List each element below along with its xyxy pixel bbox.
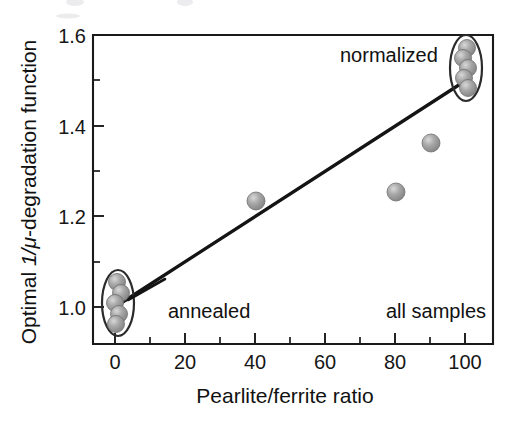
annotation-annealed: annealed xyxy=(168,300,250,322)
data-point xyxy=(247,192,265,210)
x-tick-labels: 0 20 40 60 80 100 xyxy=(109,351,481,373)
data-point xyxy=(460,80,477,97)
x-tick-label: 40 xyxy=(244,351,266,373)
y-axis-ticks xyxy=(93,35,104,307)
data-point-group-annealed xyxy=(107,274,130,333)
x-tick-label: 100 xyxy=(448,351,481,373)
data-point-group-intermediate xyxy=(247,134,440,210)
y-tick-labels: 1.6 1.4 1.2 1.0 xyxy=(58,25,86,319)
x-tick-label: 80 xyxy=(384,351,406,373)
figure-container: 1.6 1.4 1.2 1.0 0 20 40 60 80 100 xyxy=(0,0,517,421)
trend-line xyxy=(115,81,465,307)
x-tick-label: 60 xyxy=(314,351,336,373)
data-point xyxy=(422,134,440,152)
y-axis-title-suffix: -degradation function xyxy=(17,40,40,237)
y-axis-title: Optimal 1/μ-degradation function xyxy=(17,40,40,345)
x-axis-title: Pearlite/ferrite ratio xyxy=(196,384,373,407)
scatter-plot: 1.6 1.4 1.2 1.0 0 20 40 60 80 100 xyxy=(0,0,517,421)
data-point xyxy=(108,316,125,333)
y-tick-label: 1.6 xyxy=(58,25,86,47)
y-tick-label: 1.4 xyxy=(58,116,86,138)
y-axis-title-prefix: Optimal xyxy=(17,266,40,344)
annotation-all-samples: all samples xyxy=(386,300,486,322)
y-tick-label: 1.0 xyxy=(58,297,86,319)
annotation-normalized: normalized xyxy=(340,44,438,66)
x-axis-ticks xyxy=(115,333,465,344)
x-tick-label: 0 xyxy=(109,351,120,373)
y-tick-label: 1.2 xyxy=(58,206,86,228)
scan-artifact xyxy=(56,0,193,19)
axis-frame xyxy=(93,35,493,344)
data-point-group-normalized xyxy=(455,40,477,97)
data-point xyxy=(387,183,405,201)
y-axis-title-symbol: 1/μ xyxy=(17,237,40,267)
x-tick-label: 20 xyxy=(174,351,196,373)
